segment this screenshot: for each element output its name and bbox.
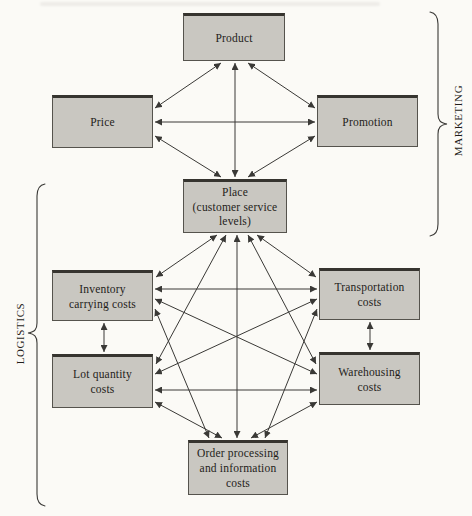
connector-layer (0, 0, 472, 516)
logistics-group-label: LOGISTICS (14, 289, 29, 379)
node-price: Price (52, 95, 153, 148)
edge-place-transportation (257, 235, 316, 277)
edge-price-place (155, 136, 221, 177)
node-order-processing-costs: Order processing and information costs (188, 440, 288, 495)
node-transportation-costs: Transportation costs (319, 268, 420, 320)
node-place: Place (customer service levels) (183, 179, 287, 233)
marketing-group-label: MARKETING (452, 76, 467, 166)
edge-place-inventory (156, 235, 217, 277)
edge-inventory-order (155, 309, 209, 438)
edge-lot-order (155, 402, 222, 438)
diagram-canvas: Product Price Promotion Place (customer … (0, 0, 472, 516)
edge-price-product (155, 63, 221, 108)
edge-promotion-product (248, 63, 315, 108)
edge-promotion-place (248, 136, 315, 177)
edge-transportation-order (265, 309, 317, 438)
node-lot-quantity-costs: Lot quantity costs (52, 354, 153, 408)
edge-warehousing-order (251, 402, 317, 438)
marketing-brace (430, 12, 447, 236)
node-place-label: Place (customer service levels) (193, 185, 278, 229)
node-price-label: Price (90, 115, 115, 130)
node-promotion: Promotion (317, 95, 418, 147)
node-lot-label: Lot quantity costs (73, 367, 132, 396)
logistics-brace (28, 184, 45, 506)
node-transportation-label: Transportation costs (334, 280, 404, 309)
node-product: Product (183, 13, 285, 61)
node-inventory-label: Inventory carrying costs (69, 282, 136, 311)
edge-place-warehousing (248, 235, 316, 364)
node-order-label: Order processing and information costs (197, 446, 279, 490)
edge-place-lot (156, 235, 226, 364)
node-inventory-carrying-costs: Inventory carrying costs (52, 270, 153, 321)
node-warehousing-costs: Warehousing costs (319, 352, 420, 405)
node-promotion-label: Promotion (342, 115, 392, 130)
node-product-label: Product (215, 31, 252, 46)
node-warehousing-label: Warehousing costs (338, 365, 401, 394)
